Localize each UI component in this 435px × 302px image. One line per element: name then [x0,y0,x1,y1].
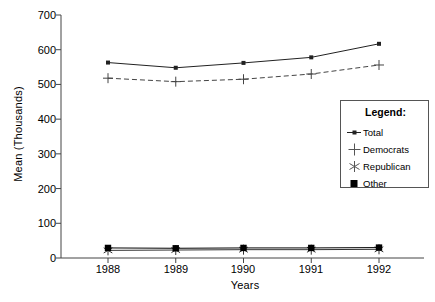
x-tick-label-1991: 1991 [287,263,335,275]
data-point-marker [103,73,113,83]
x-tick-label-1990: 1990 [219,263,267,275]
legend-item-democrats[interactable]: Democrats [346,142,430,157]
y-tick-label-400: 400 [12,113,56,125]
data-point-marker [174,66,178,70]
data-point-marker [242,61,246,65]
line-chart: Mean (Thousands) Years 700 600 500 400 3… [0,0,435,302]
data-point-marker [376,244,382,250]
y-tick-label-100: 100 [12,217,56,229]
y-tick-label-200: 200 [12,183,56,195]
legend-item-republican[interactable]: Republican [346,159,430,174]
legend-item-other[interactable]: Other [346,176,430,191]
legend-label-republican: Republican [363,161,411,172]
data-point-marker [377,42,381,46]
data-point-marker [306,69,316,79]
y-tick-label-500: 500 [12,78,56,90]
x-axis-title: Years [160,279,330,291]
data-point-marker [240,245,246,251]
data-point-marker [308,245,314,251]
plus-marker-icon [346,142,363,157]
legend-label-total: Total [363,127,383,138]
x-tick-label-1992: 1992 [355,263,403,275]
x-tick-label-1988: 1988 [84,263,132,275]
data-point-marker [374,60,384,70]
asterisk-marker-icon [346,159,363,174]
legend-label-democrats: Democrats [363,144,409,155]
data-point-marker [239,74,249,84]
filled-square-marker-icon [346,176,363,191]
legend-item-total[interactable]: Total [346,125,430,140]
legend: Legend: Total Democrats [340,100,429,188]
square-dot-marker-icon [346,125,363,140]
data-point-marker [106,61,110,65]
x-tick-label-1989: 1989 [152,263,200,275]
y-tick-label-600: 600 [12,44,56,56]
legend-label-other: Other [363,178,387,189]
data-point-marker [171,77,181,87]
y-tick-label-700: 700 [12,9,56,21]
data-point-marker [173,245,179,251]
y-tick-label-300: 300 [12,148,56,160]
legend-title: Legend: [341,106,430,118]
y-tick-label-0: 0 [12,252,56,264]
data-point-marker [309,55,313,59]
data-point-marker [105,245,111,251]
